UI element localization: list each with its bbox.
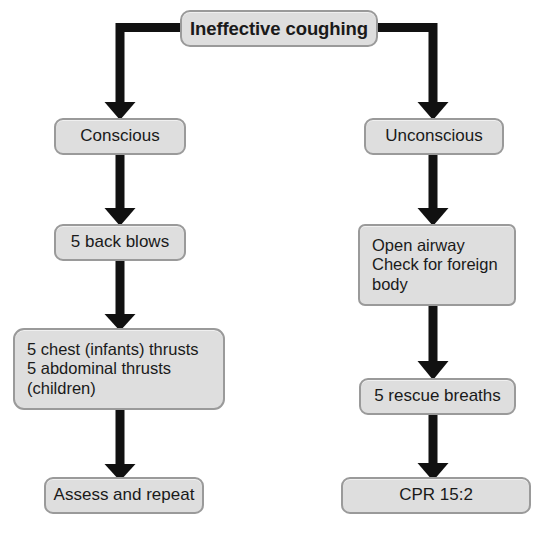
node-label: CPR 15:2	[393, 485, 479, 505]
node-5-back-blows[interactable]: 5 back blows	[54, 224, 186, 261]
node-cpr-15-2[interactable]: CPR 15:2	[341, 477, 531, 514]
node-label: Conscious	[74, 126, 165, 146]
node-ineffective-coughing[interactable]: Ineffective coughing	[180, 10, 378, 47]
node-label: Assess and repeat	[48, 485, 201, 505]
connector-unconscious-to-open-airway	[418, 155, 449, 226]
node-label: 5 chest (infants) thrusts 5 abdominal th…	[15, 340, 205, 398]
connector-root-to-unconscious	[376, 28, 449, 121]
node-label: Unconscious	[379, 126, 488, 146]
connector-root-to-conscious	[105, 28, 183, 121]
node-assess-and-repeat[interactable]: Assess and repeat	[44, 477, 204, 514]
node-label: 5 back blows	[65, 232, 175, 252]
node-chest-abdominal-thrusts[interactable]: 5 chest (infants) thrusts 5 abdominal th…	[13, 328, 225, 410]
figure-caption	[0, 528, 536, 537]
node-label: Ineffective coughing	[184, 18, 374, 40]
node-label: Open airway Check for foreign body	[360, 236, 504, 294]
connector-back-blows-to-thrusts	[105, 261, 136, 331]
connector-rescue-breaths-to-cpr	[418, 415, 449, 481]
flowchart-canvas: Ineffective coughing Conscious Unconscio…	[0, 0, 536, 537]
node-label: 5 rescue breaths	[368, 386, 507, 406]
connector-conscious-to-back-blows	[105, 155, 136, 226]
connector-thrusts-to-assess	[105, 410, 136, 481]
node-5-rescue-breaths[interactable]: 5 rescue breaths	[359, 378, 516, 415]
connector-open-airway-to-rescue-breaths	[418, 306, 449, 380]
node-conscious[interactable]: Conscious	[54, 118, 186, 155]
node-open-airway-check-foreign-body[interactable]: Open airway Check for foreign body	[358, 224, 516, 306]
node-unconscious[interactable]: Unconscious	[364, 118, 504, 155]
